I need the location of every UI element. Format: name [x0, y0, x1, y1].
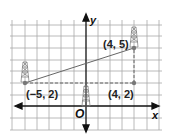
point-c — [132, 81, 136, 85]
y-axis-label: y — [89, 14, 97, 26]
point-b — [132, 46, 136, 50]
point-a-label: (−5, 2) — [26, 88, 58, 100]
origin-label: O — [75, 107, 85, 121]
point-a — [23, 81, 27, 85]
segment-a-b — [25, 48, 134, 83]
point-b-label: (4, 5) — [103, 38, 129, 50]
x-axis-left-arrow-icon — [15, 103, 22, 109]
y-axis-down-arrow-icon — [83, 125, 89, 132]
point-c-label: (4, 2) — [108, 88, 134, 100]
coordinate-graph: (−5, 2) (4, 5) (4, 2) y x O — [0, 0, 169, 135]
x-axis-label: x — [151, 109, 159, 121]
y-axis-up-arrow-icon — [83, 14, 89, 21]
